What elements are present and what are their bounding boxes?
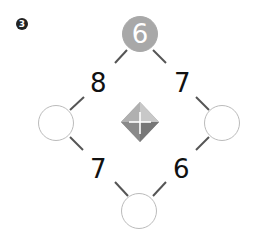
bottom-circle-blank[interactable] [121, 193, 157, 229]
left-circle-blank[interactable] [38, 105, 74, 141]
plus-gem-icon [119, 100, 161, 144]
edge-value-bottom-right: 6 [173, 156, 190, 182]
edge-value-top-right: 7 [174, 70, 191, 96]
edge-value-bottom-left: 7 [90, 156, 107, 182]
right-circle-blank[interactable] [204, 105, 240, 141]
edge-value-top-left: 8 [90, 70, 107, 96]
top-circle-filled: 6 [122, 16, 158, 52]
